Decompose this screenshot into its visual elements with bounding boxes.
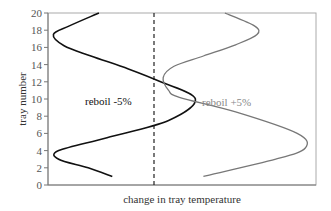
y-tick-label: 12 — [31, 76, 42, 88]
y-tick-label: 2 — [37, 162, 43, 174]
y-tick-label: 16 — [31, 41, 43, 53]
annotation-reboil-plus-5: reboil +5% — [202, 96, 251, 108]
y-tick-label: 18 — [31, 24, 43, 36]
series-reboil-plus-5 — [163, 13, 307, 176]
tray-temperature-chart: 02468101214161820 reboil -5% reboil +5% … — [0, 0, 331, 211]
y-tick-label: 10 — [31, 93, 43, 105]
y-tick-label: 20 — [31, 7, 43, 19]
y-tick-label: 0 — [37, 179, 43, 191]
y-tick-label: 8 — [37, 110, 43, 122]
y-ticks: 02468101214161820 — [31, 7, 48, 191]
y-axis-label: tray number — [16, 72, 28, 126]
x-axis-label: change in tray temperature — [123, 193, 241, 205]
y-tick-label: 6 — [37, 127, 43, 139]
y-tick-label: 4 — [37, 145, 43, 157]
y-tick-label: 14 — [31, 59, 43, 71]
annotation-reboil-minus-5: reboil -5% — [85, 95, 132, 107]
